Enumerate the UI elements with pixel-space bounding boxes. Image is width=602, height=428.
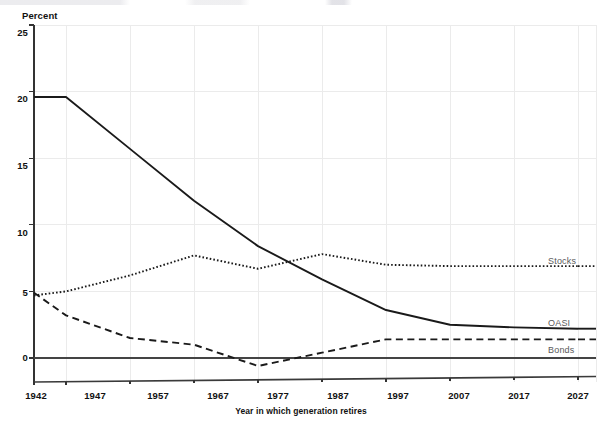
series-line-bonds	[34, 293, 578, 366]
chart-figure: Percent 25 20 15 10 5 0 1942 1947 1957 1…	[0, 0, 602, 428]
y-tick-label-10: 10	[2, 227, 28, 238]
y-tick-label-20: 20	[2, 93, 28, 104]
top-edge-artifact	[0, 0, 602, 5]
y-tick-label-0: 0	[2, 352, 28, 363]
x-tick-label-1967: 1967	[207, 390, 229, 401]
axis-lines	[29, 25, 596, 385]
y-tick-label-25: 25	[2, 27, 28, 38]
x-tick-label-1997: 1997	[387, 390, 409, 401]
y-tick-label-15: 15	[2, 160, 28, 171]
x-tick-label-1957: 1957	[147, 390, 169, 401]
x-axis-title: Year in which generation retires	[0, 406, 602, 416]
x-tick-label-2007: 2007	[448, 390, 470, 401]
series-line-stocks	[34, 254, 578, 295]
gridlines	[34, 25, 596, 382]
x-tick-label-2027: 2027	[567, 390, 589, 401]
plot-canvas	[0, 0, 602, 428]
series-label-bonds: Bonds	[548, 345, 575, 355]
x-tick-label-1977: 1977	[267, 390, 289, 401]
series-label-oasi: OASI	[548, 318, 570, 328]
x-tick-label-1947: 1947	[84, 390, 106, 401]
y-tick-label-5: 5	[2, 287, 28, 298]
series-line-oasi	[34, 97, 578, 329]
y-axis-title: Percent	[22, 10, 58, 21]
x-tick-label-1942: 1942	[25, 390, 47, 401]
series-label-stocks: Stocks	[548, 256, 576, 266]
series-paths	[34, 97, 596, 366]
x-tick-label-1987: 1987	[327, 390, 349, 401]
x-tick-label-2017: 2017	[508, 390, 530, 401]
